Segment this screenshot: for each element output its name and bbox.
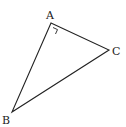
triangle-diagram: A C B	[0, 0, 126, 127]
triangle-abc	[12, 23, 109, 112]
vertex-label-b: B	[2, 114, 10, 127]
right-angle-marker	[53, 28, 58, 35]
vertex-label-a: A	[45, 9, 55, 22]
vertex-label-c: C	[112, 45, 120, 58]
